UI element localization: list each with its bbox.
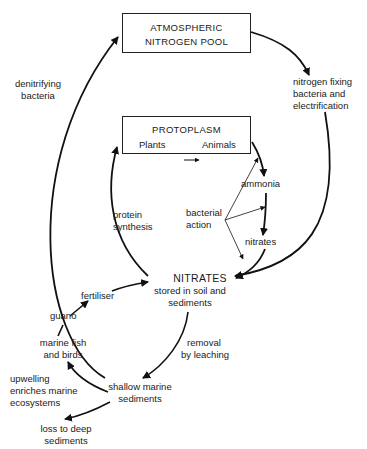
marine-fish-birds-label: marine fish and birds: [36, 337, 90, 361]
protein-synthesis-label: protein synthesis: [113, 209, 153, 233]
guano-label: guano: [50, 310, 76, 322]
shallow-marine-sediments-label: shallow marine sediments: [102, 381, 178, 405]
atmospheric-line1: ATMOSPHERIC: [123, 22, 250, 34]
denitrifying-bacteria-label: denitrifying bacteria: [8, 78, 68, 102]
nitrates-title: NITRATES: [150, 272, 250, 284]
upwelling-label: upwelling enriches marine ecosystems: [10, 373, 78, 409]
ammonia-label: ammonia: [241, 178, 280, 190]
protoplasm-box: PROTOPLASM Plants Animals: [122, 116, 251, 154]
plants-label: Plants: [139, 139, 165, 151]
animals-label: Animals: [202, 139, 236, 151]
bacterial-action-label: bacterial action: [186, 207, 222, 231]
nitrification-arrow: [263, 193, 266, 235]
decomposition-arrow: [252, 142, 264, 176]
atmospheric-line2: NITROGEN POOL: [123, 36, 250, 48]
nitrates-store-desc: stored in soil and sediments: [140, 285, 240, 309]
fertiliser-label: fertiliser: [81, 290, 114, 302]
atmospheric-nitrogen-pool-box: ATMOSPHERIC NITROGEN POOL: [122, 13, 251, 53]
fixation-arrow-top: [251, 32, 309, 75]
loss-deep-sediments-label: loss to deep sediments: [33, 423, 99, 447]
nitrogen-fixing-label: nitrogen fixing bacteria and electrifica…: [293, 76, 352, 112]
nitrates-small-label: nitrates: [245, 236, 276, 248]
removal-leaching-label: removal by leaching: [181, 337, 229, 361]
protoplasm-title: PROTOPLASM: [123, 124, 250, 136]
